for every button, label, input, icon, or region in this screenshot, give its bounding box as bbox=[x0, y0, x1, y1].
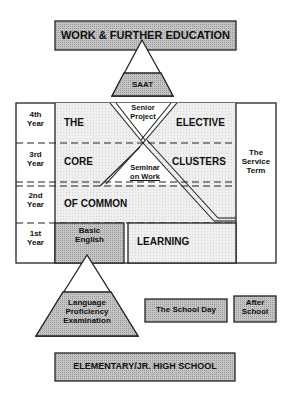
after-school-legend-label: After School bbox=[234, 298, 276, 316]
saat-label: SAAT bbox=[112, 80, 173, 89]
work-further-education-label: WORK & FURTHER EDUCATION bbox=[55, 29, 236, 42]
service-term-label: The Service Term bbox=[236, 148, 276, 176]
core-of-common-label: OF COMMON bbox=[64, 198, 127, 210]
seminar-on-work-label: Seminar on Work bbox=[122, 164, 168, 181]
year-1-label: 1st Year bbox=[16, 229, 55, 247]
senior-project-label: Senior Project bbox=[122, 104, 164, 121]
year-4-label: 4th Year bbox=[16, 110, 55, 128]
core-learning-label: LEARNING bbox=[137, 236, 189, 248]
clusters-label: CLUSTERS bbox=[172, 156, 226, 168]
year-2-label: 2nd Year bbox=[16, 191, 55, 209]
core-the-label: THE bbox=[64, 117, 84, 129]
basic-english-label: Basic English bbox=[55, 226, 124, 244]
elective-label: ELECTIVE bbox=[176, 117, 225, 129]
elementary-jr-high-label: ELEMENTARY/JR. HIGH SCHOOL bbox=[55, 361, 235, 371]
language-exam-label: Language Proficiency Examination bbox=[44, 298, 130, 326]
school-day-legend-label: The School Day bbox=[145, 305, 227, 314]
core-core-label: CORE bbox=[64, 156, 93, 168]
year-3-label: 3rd Year bbox=[16, 150, 55, 168]
